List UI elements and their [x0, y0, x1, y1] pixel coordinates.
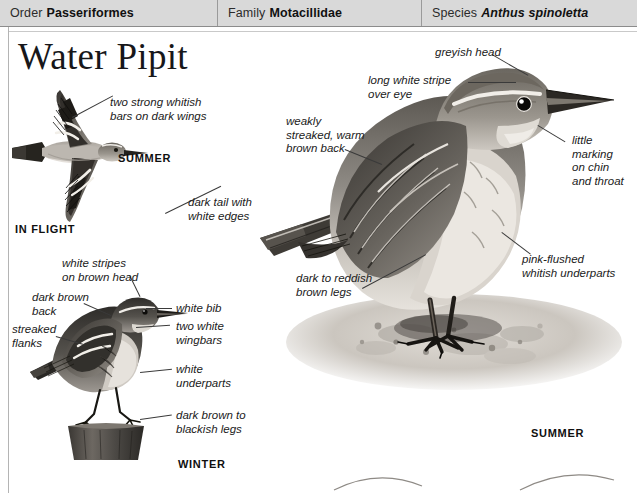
page-title: Water Pipit — [18, 38, 188, 75]
species-key-label: Species — [432, 6, 477, 20]
order-key-label: Order — [10, 6, 42, 20]
annotation-summer-underparts: pink-flushed whitish underparts — [522, 253, 615, 280]
annotation-winter-bib: white bib — [176, 302, 221, 316]
family-key-label: Family — [228, 6, 265, 20]
leader-line-winter-bib — [146, 308, 172, 309]
header-cell-order: Order Passeriformes — [0, 0, 216, 26]
annotation-flight-wingbars: two strong whitish bars on dark wings — [110, 96, 207, 123]
taxonomy-header-bar: Order Passeriformes Family Motacillidae … — [0, 0, 637, 27]
label-summer-season: SUMMER — [531, 427, 584, 439]
annotation-winter-legs: dark brown to blackish legs — [176, 409, 246, 436]
family-value-label: Motacillidae — [269, 6, 342, 20]
label-in-flight: IN FLIGHT — [15, 223, 75, 235]
annotation-summer-supercilium: long white stripe over eye — [368, 74, 451, 101]
leader-line-summer-supercilium — [468, 82, 516, 83]
next-plate-bleed-arcs — [330, 462, 630, 493]
header-cell-species: Species Anthus spinoletta — [421, 0, 637, 26]
label-flight-season-summer: SUMMER — [118, 152, 171, 164]
header-cell-family: Family Motacillidae — [217, 0, 420, 26]
annotation-winter-back: dark brown back — [32, 291, 89, 318]
annotation-summer-back: weakly streaked, warm brown back — [286, 115, 365, 156]
annotation-winter-wingbars: two white wingbars — [176, 320, 224, 347]
annotation-winter-flanks: streaked flanks — [12, 323, 56, 350]
annotation-summer-head: greyish head — [435, 46, 501, 60]
order-value-label: Passeriformes — [46, 6, 133, 20]
species-value-label: Anthus spinoletta — [481, 6, 588, 20]
content-top-rule — [8, 31, 637, 32]
field-guide-page: Order Passeriformes Family Motacillidae … — [0, 0, 637, 493]
annotation-summer-chin: little marking on chin and throat — [572, 134, 624, 188]
annotation-winter-head-stripes: white stripes on brown head — [62, 257, 138, 284]
annotation-flight-tail: dark tail with white edges — [188, 196, 252, 223]
annotation-summer-legs: dark to reddish brown legs — [296, 272, 372, 299]
annotation-winter-underparts: white underparts — [176, 363, 231, 390]
label-winter-season: WINTER — [178, 458, 226, 470]
